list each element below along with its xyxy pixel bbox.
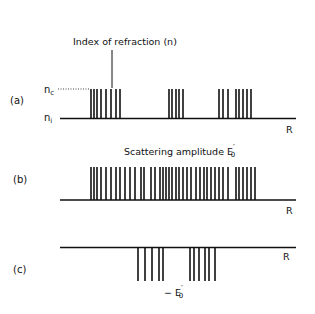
panel-c-label: (c) xyxy=(13,264,26,275)
panel-a-label: (a) xyxy=(10,95,24,106)
panel-a-bars xyxy=(91,89,251,119)
panel-b-title: Scattering amplitude E′0 xyxy=(124,144,235,159)
figure: (a) Index of refraction (n) nc ni R Scat… xyxy=(0,0,315,314)
level-ni-label: ni xyxy=(44,112,52,125)
panel-c-axis-label: R xyxy=(283,251,290,262)
panel-c-bars xyxy=(138,248,215,282)
panel-a-title: Index of refraction (n) xyxy=(73,36,177,47)
panel-b-bars xyxy=(91,167,255,200)
panel-b-axis-label: R xyxy=(286,205,293,216)
level-nc-label: nc xyxy=(44,84,54,97)
panel-a-axis-label: R xyxy=(286,124,293,135)
panel-c-bottom-label: − E′0 xyxy=(164,285,183,300)
panel-c: R (c) − E′0 xyxy=(13,248,296,301)
panel-b: Scattering amplitude E′0 (b) R xyxy=(13,144,296,216)
panel-b-label: (b) xyxy=(13,174,27,185)
panel-a: (a) Index of refraction (n) nc ni R xyxy=(10,36,296,135)
